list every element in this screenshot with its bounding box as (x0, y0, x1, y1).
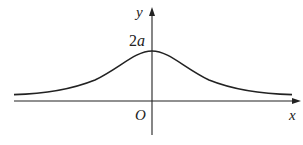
graph: y 2a O x (0, 0, 303, 145)
peak-label: 2a (129, 32, 145, 49)
agnesi-curve (14, 51, 292, 95)
origin-label: O (135, 107, 146, 123)
x-axis-label: x (288, 107, 296, 123)
figure-canvas: y 2a O x (0, 0, 303, 145)
x-axis-arrow-icon (292, 98, 301, 104)
peak-label-coef: 2 (129, 32, 137, 49)
peak-label-var: a (137, 32, 145, 49)
y-axis-label: y (134, 4, 143, 20)
y-axis-arrow-icon (149, 7, 155, 16)
